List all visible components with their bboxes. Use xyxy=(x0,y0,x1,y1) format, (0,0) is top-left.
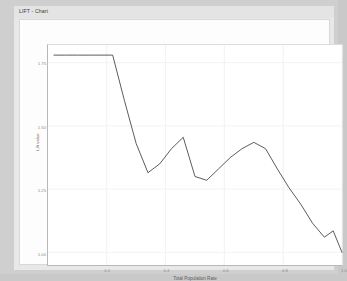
plot-area: 0.20.40.60.81.01.751.501.251.00 xyxy=(47,44,343,266)
y-tick-label: 1.75 xyxy=(38,60,46,65)
x-tick-label: 0.4 xyxy=(163,268,169,273)
y-axis-label: Lift value xyxy=(35,133,40,151)
window-title: LIFT - Chart xyxy=(19,8,48,14)
x-tick-label: 0.8 xyxy=(282,268,288,273)
y-tick-label: 1.50 xyxy=(38,124,46,129)
y-tick-label: 1.00 xyxy=(38,252,46,257)
lift-series-line xyxy=(54,55,342,252)
x-axis-label: Total Population Rate xyxy=(47,276,343,281)
chart-card: Lift value Total Population Rate 0.20.40… xyxy=(19,19,330,265)
window-titlebar: LIFT - Chart xyxy=(14,6,334,18)
y-tick-label: 1.25 xyxy=(38,188,46,193)
x-tick-label: 1.0 xyxy=(341,268,347,273)
lift-curve xyxy=(48,45,342,265)
x-tick-label: 0.6 xyxy=(223,268,229,273)
x-tick-label: 0.2 xyxy=(104,268,110,273)
